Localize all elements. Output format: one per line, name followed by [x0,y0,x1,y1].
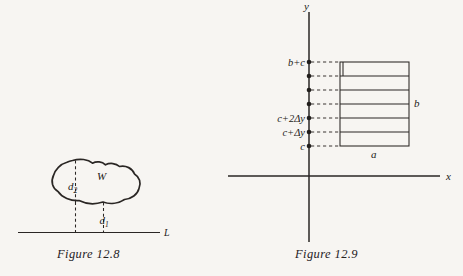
caption-figure-12-9: Figure 12.9 [294,247,358,261]
y-tick-dot [307,88,312,93]
figure-plate: d2 d1 W L Figure 12.8 y x [0,0,463,276]
y-tick-dot [307,60,312,65]
y-tick-dot [307,130,312,135]
label-region-W: W [97,170,107,182]
y-tick-dot [307,74,312,79]
label-height-b: b [414,97,420,109]
label-axis-x: x [445,170,451,182]
y-tick-dot [307,102,312,107]
label-line-L: L [163,227,170,238]
label-width-a: a [371,148,377,160]
y-tick-dot [307,144,312,149]
label-axis-y: y [303,0,309,12]
y-tick-label-c: c [300,141,305,152]
figure-12-8-group: d2 d1 W L Figure 12.8 [18,159,170,261]
y-tick-label-c-plus-2dy: c+2Δy [277,113,305,124]
caption-figure-12-8: Figure 12.8 [56,247,120,261]
label-d2: d2 [68,180,78,195]
label-d1: d1 [100,214,109,229]
y-tick-label-b-plus-c: b+c [288,57,305,68]
y-tick-dot [307,116,312,121]
figure-12-9-group: y x [228,0,451,261]
y-tick-label-c-plus-dy: c+Δy [282,127,305,138]
figures-canvas: d2 d1 W L Figure 12.8 y x [0,0,463,276]
